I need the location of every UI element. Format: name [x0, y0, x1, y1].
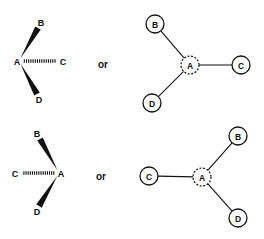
node-label-b: B: [235, 132, 241, 142]
row-bottom: BCDAorBCDA: [12, 127, 247, 227]
node-c: C: [232, 56, 250, 74]
stereochemistry-diagram: BCDAorBCDA BCDAorBCDA: [0, 0, 264, 239]
atom-label-d: D: [34, 207, 41, 217]
atom-label-b: B: [38, 18, 45, 28]
node-label-c: C: [146, 172, 152, 182]
node-b: B: [146, 15, 164, 33]
node-b: B: [229, 127, 247, 145]
atom-label-a: A: [58, 169, 65, 179]
atom-label-c: C: [60, 57, 67, 67]
stereo-projection: BCDA: [12, 129, 65, 217]
node-label-a: A: [199, 173, 205, 183]
edge-a-b: [208, 143, 232, 170]
node-a-dashed: A: [181, 56, 199, 74]
or-label: or: [96, 171, 106, 182]
wedge-bond-b: [21, 26, 41, 58]
edge-a-c: [158, 176, 193, 177]
node-label-d: D: [149, 99, 155, 109]
node-label-c: C: [238, 61, 244, 71]
wedge-bond-d: [20, 64, 39, 96]
atom-label-b: B: [34, 129, 41, 139]
edge-a-b: [161, 31, 184, 58]
node-label-b: B: [152, 20, 158, 30]
node-a-dashed: A: [193, 168, 211, 186]
node-d: D: [143, 94, 161, 112]
node-label-a: A: [187, 61, 193, 71]
wedge-bond-b: [37, 137, 57, 170]
stereo-projection: BCDA: [14, 18, 67, 105]
row-top: BCDAorBCDA: [14, 15, 250, 112]
node-c: C: [140, 167, 158, 185]
wedge-bond-d: [36, 176, 57, 208]
node-label-d: D: [235, 214, 241, 224]
edge-a-d: [208, 184, 232, 211]
or-label: or: [98, 59, 108, 70]
hashed-bond-c: [24, 171, 54, 175]
atom-label-d: D: [36, 95, 43, 105]
node-d: D: [229, 209, 247, 227]
hashed-bond-c: [24, 59, 55, 63]
atom-label-c: C: [12, 169, 19, 179]
edge-a-d: [158, 71, 183, 96]
graph-representation: BCDA: [143, 15, 250, 112]
graph-representation: BCDA: [140, 127, 247, 227]
atom-label-a: A: [14, 57, 21, 67]
